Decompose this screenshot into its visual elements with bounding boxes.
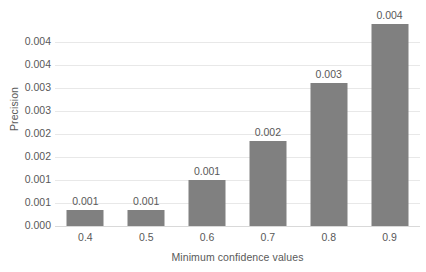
bar-series: 0.0010.0010.0010.0020.0030.004 xyxy=(55,19,420,226)
bar-slot: 0.001 xyxy=(116,19,177,226)
bar[interactable] xyxy=(67,210,104,226)
bar[interactable] xyxy=(249,141,286,226)
y-axis-tick-label: 0.003 xyxy=(0,105,51,116)
x-axis-tick-label: 0.9 xyxy=(382,231,397,243)
bar-value-label: 0.003 xyxy=(316,68,342,80)
bar-value-label: 0.004 xyxy=(376,9,402,21)
bar-value-label: 0.001 xyxy=(133,195,159,207)
bar[interactable] xyxy=(189,180,226,226)
x-axis-tick-label: 0.4 xyxy=(78,231,93,243)
y-axis-tick-label: 0.001 xyxy=(0,197,51,208)
bar[interactable] xyxy=(310,83,347,226)
y-axis-tick-label: 0.001 xyxy=(0,174,51,185)
bar-slot: 0.003 xyxy=(298,19,359,226)
bar-value-label: 0.001 xyxy=(72,195,98,207)
y-axis-tick-label: 0.004 xyxy=(0,36,51,47)
bar-value-label: 0.002 xyxy=(255,126,281,138)
y-axis-tick-label: 0.004 xyxy=(0,59,51,70)
plot-area: 0.0010.0010.0010.0020.0030.004 xyxy=(55,19,420,226)
x-axis-tick-label: 0.5 xyxy=(139,231,154,243)
bar-value-label: 0.001 xyxy=(194,165,220,177)
y-axis-tick-label: 0.003 xyxy=(0,82,51,93)
bar-slot: 0.001 xyxy=(55,19,116,226)
x-axis-tick-label: 0.8 xyxy=(321,231,336,243)
bar-slot: 0.004 xyxy=(359,19,420,226)
x-axis-tick-label: 0.6 xyxy=(200,231,215,243)
x-axis-tick-label: 0.7 xyxy=(261,231,276,243)
bar-slot: 0.001 xyxy=(177,19,238,226)
bar-slot: 0.002 xyxy=(238,19,299,226)
y-axis-tick-labels: 0.0000.0010.0010.0020.0020.0030.0030.004… xyxy=(0,0,51,272)
bar-chart: Precision 0.0000.0010.0010.0020.0020.003… xyxy=(0,0,426,272)
y-axis-tick-label: 0.002 xyxy=(0,151,51,162)
x-axis-tick-labels: 0.40.50.60.70.80.9 xyxy=(55,231,420,247)
x-axis-title: Minimum confidence values xyxy=(55,251,420,263)
bar[interactable] xyxy=(371,24,408,226)
y-axis-tick-label: 0.000 xyxy=(0,220,51,231)
axis-baseline xyxy=(55,226,420,227)
bar[interactable] xyxy=(128,210,165,226)
y-axis-tick-label: 0.002 xyxy=(0,128,51,139)
